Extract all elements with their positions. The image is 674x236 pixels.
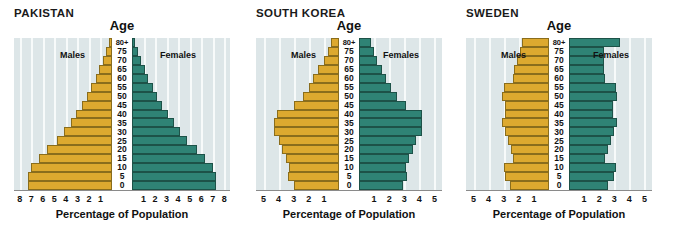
female-plot-half bbox=[132, 38, 230, 190]
population-pyramid-figure: PAKISTANAge80+75706560555045403530252015… bbox=[0, 0, 674, 236]
bar-row bbox=[466, 38, 549, 47]
male-bar-age-25 bbox=[57, 136, 112, 145]
female-bar-age-10 bbox=[132, 163, 213, 172]
age-tick-label: 30 bbox=[112, 127, 132, 136]
female-bar-age-35 bbox=[132, 118, 174, 127]
male-bar-age-40 bbox=[76, 110, 112, 119]
pyramid-panel-pakistan: PAKISTANAge80+75706560555045403530252015… bbox=[0, 0, 248, 236]
bar-row bbox=[14, 154, 112, 163]
bar-row bbox=[14, 65, 112, 74]
bar-row bbox=[132, 118, 230, 127]
bar-row bbox=[132, 163, 230, 172]
male-plot-half bbox=[14, 38, 112, 190]
male-bar-age-30 bbox=[274, 127, 339, 136]
bar-row bbox=[14, 136, 112, 145]
bar-row bbox=[466, 136, 549, 145]
bar-row bbox=[14, 127, 112, 136]
x-tick-female: 6 bbox=[199, 194, 204, 204]
female-bar-age-55 bbox=[132, 83, 153, 92]
country-title: SWEDEN bbox=[466, 7, 519, 19]
female-bar-age-25 bbox=[359, 136, 416, 145]
male-plot-half bbox=[256, 38, 339, 190]
bar-row bbox=[569, 74, 652, 83]
bar-row bbox=[569, 118, 652, 127]
male-bar-age-25 bbox=[508, 136, 549, 145]
male-bar-age-15 bbox=[39, 154, 112, 163]
x-tick-female: 5 bbox=[187, 194, 192, 204]
female-bar-age-75 bbox=[359, 47, 374, 56]
male-bar-age-60 bbox=[313, 74, 339, 83]
male-bar-age-0 bbox=[28, 181, 112, 190]
bar-row bbox=[132, 74, 230, 83]
x-tick-male: 4 bbox=[276, 194, 281, 204]
x-tick-female: 8 bbox=[222, 194, 227, 204]
male-bar-age-10 bbox=[289, 163, 339, 172]
female-bar-age-80+ bbox=[569, 38, 620, 47]
bar-row bbox=[466, 65, 549, 74]
females-series-label: Females bbox=[160, 50, 196, 60]
bar-row bbox=[132, 154, 230, 163]
x-axis-ticks: 8765432112345678 bbox=[14, 194, 230, 208]
x-tick-male: 5 bbox=[471, 194, 476, 204]
male-bar-age-5 bbox=[505, 172, 549, 181]
x-tick-male: 1 bbox=[321, 194, 326, 204]
female-bar-age-55 bbox=[359, 83, 391, 92]
bar-row bbox=[132, 172, 230, 181]
male-bar-age-50 bbox=[303, 92, 339, 101]
bar-row bbox=[14, 83, 112, 92]
bar-row bbox=[132, 145, 230, 154]
bar-row bbox=[256, 101, 339, 110]
x-tick-male: 2 bbox=[306, 194, 311, 204]
x-tick-female: 1 bbox=[372, 194, 377, 204]
plot-area: 80+757065605550454035302520151050 bbox=[14, 38, 230, 190]
bar-row bbox=[256, 92, 339, 101]
x-tick-female: 4 bbox=[627, 194, 632, 204]
female-plot-half bbox=[359, 38, 442, 190]
pyramid-panel-korea: SOUTH KOREAAge80+75706560555045403530252… bbox=[248, 0, 456, 236]
female-bar-age-75 bbox=[132, 47, 138, 56]
female-bar-age-65 bbox=[132, 65, 145, 74]
female-bar-age-80+ bbox=[359, 38, 371, 47]
female-bar-age-30 bbox=[359, 127, 422, 136]
female-bar-age-0 bbox=[132, 181, 216, 190]
male-bar-age-75 bbox=[328, 47, 339, 56]
x-tick-female: 3 bbox=[402, 194, 407, 204]
age-axis-title: Age bbox=[110, 18, 135, 33]
bar-row bbox=[256, 38, 339, 47]
male-bar-age-25 bbox=[279, 136, 339, 145]
bar-row bbox=[466, 163, 549, 172]
male-bar-age-50 bbox=[502, 92, 549, 101]
bar-group bbox=[359, 38, 442, 190]
male-bar-age-70 bbox=[324, 56, 339, 65]
x-axis-baseline bbox=[14, 190, 230, 191]
male-bar-age-35 bbox=[71, 118, 113, 127]
male-bar-age-60 bbox=[513, 74, 549, 83]
bar-row bbox=[569, 38, 652, 47]
bar-row bbox=[132, 181, 230, 190]
bar-row bbox=[14, 101, 112, 110]
bar-row bbox=[569, 101, 652, 110]
bar-row bbox=[466, 154, 549, 163]
bar-row bbox=[256, 118, 339, 127]
bar-row bbox=[466, 145, 549, 154]
age-tick-label: 0 bbox=[112, 181, 132, 190]
x-tick-male: 6 bbox=[40, 194, 45, 204]
female-bar-age-5 bbox=[132, 172, 216, 181]
male-bar-age-0 bbox=[510, 181, 549, 190]
age-axis-title: Age bbox=[547, 18, 572, 33]
male-plot-half bbox=[466, 38, 549, 190]
bar-row bbox=[14, 181, 112, 190]
male-bar-age-45 bbox=[294, 101, 339, 110]
x-tick-male: 1 bbox=[98, 194, 103, 204]
female-bar-age-60 bbox=[569, 74, 605, 83]
males-series-label: Males bbox=[291, 50, 316, 60]
bar-row bbox=[256, 65, 339, 74]
male-bar-age-80+ bbox=[331, 38, 339, 47]
males-series-label: Males bbox=[501, 50, 526, 60]
bar-row bbox=[569, 92, 652, 101]
bar-row bbox=[359, 38, 442, 47]
female-bar-age-5 bbox=[569, 172, 614, 181]
female-bar-age-0 bbox=[359, 181, 403, 190]
bar-row bbox=[256, 172, 339, 181]
age-tick-label: 0 bbox=[339, 181, 359, 190]
